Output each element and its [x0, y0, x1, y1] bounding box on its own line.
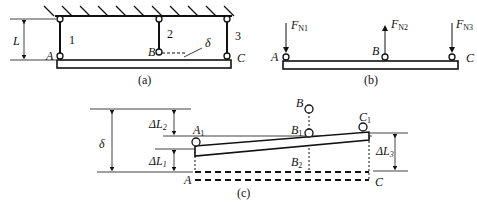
- label-b-point-a: A: [270, 50, 279, 64]
- label-point-b: B: [148, 45, 156, 59]
- joint-b1: [305, 129, 313, 137]
- label-dl2: ΔL: [148, 117, 163, 131]
- label-point-a: A: [45, 49, 54, 63]
- label-dl3: ΔL: [375, 144, 390, 158]
- label-rod-3: 3: [235, 29, 241, 43]
- panel-a: L 1 2 3 δ A B C (a: [10, 6, 246, 87]
- svg-text:FN2: FN2: [390, 17, 408, 32]
- label-dl1-sub: 1: [163, 160, 167, 169]
- caption-b: (b): [364, 73, 378, 87]
- label-b1-sub: 1: [298, 129, 302, 138]
- label-c-b: B: [296, 96, 304, 110]
- rigid-bar-a: [57, 60, 231, 68]
- svg-text:ΔL1: ΔL1: [148, 154, 167, 169]
- joint-a1: [192, 138, 200, 146]
- label-gap-delta: δ: [205, 36, 211, 50]
- label-fn2-sub: N2: [398, 23, 408, 32]
- svg-text:ΔL2: ΔL2: [148, 117, 167, 132]
- label-b2-sub: 2: [298, 161, 302, 170]
- label-c-c: C: [375, 175, 384, 189]
- caption-c: (c): [237, 186, 250, 200]
- joint-c1: [359, 123, 367, 131]
- label-fn1-sub: N1: [298, 24, 308, 33]
- label-b-point-b: B: [372, 44, 380, 58]
- panel-b: FN1 FN2 FN3 A B C (b): [270, 17, 475, 87]
- fixed-support-ceiling: [44, 6, 234, 16]
- svg-text:FN3: FN3: [455, 17, 473, 32]
- label-c1-sub: 1: [367, 116, 371, 125]
- svg-text:FN1: FN1: [290, 18, 308, 33]
- label-dl2-sub: 2: [163, 123, 167, 132]
- svg-text:B1: B1: [291, 123, 302, 138]
- label-rod-2: 2: [167, 27, 173, 41]
- label-point-c: C: [237, 51, 246, 65]
- label-dl3-sub: 3: [389, 150, 394, 159]
- label-rod-1: 1: [69, 33, 75, 47]
- label-fn3-sub: N3: [463, 23, 473, 32]
- force-fn2: FN2: [382, 17, 408, 60]
- svg-text:B2: B2: [291, 155, 302, 170]
- label-length-l: L: [12, 34, 20, 48]
- label-c-a: A: [183, 173, 192, 187]
- svg-text:C1: C1: [359, 110, 371, 125]
- label-a1-sub: 1: [200, 129, 204, 138]
- label-b-point-c: C: [466, 51, 475, 65]
- force-fn1: FN1: [283, 18, 308, 60]
- svg-text:ΔL3: ΔL3: [375, 144, 394, 159]
- rod-1: 1: [57, 16, 75, 59]
- rod-2: 2: [156, 16, 173, 55]
- svg-text:A1: A1: [192, 123, 204, 138]
- rigid-bar-b: [283, 61, 458, 69]
- label-dl1: ΔL: [148, 154, 163, 168]
- label-c-delta: δ: [99, 137, 105, 151]
- caption-a: (a): [138, 73, 151, 87]
- statically-indeterminate-bar-diagram: L 1 2 3 δ A B C (a: [0, 0, 477, 215]
- joint-b: [305, 105, 313, 113]
- panel-c: δ ΔL2 ΔL1 ΔL3 A1 B B1 B2 C1 A C (c): [90, 96, 408, 200]
